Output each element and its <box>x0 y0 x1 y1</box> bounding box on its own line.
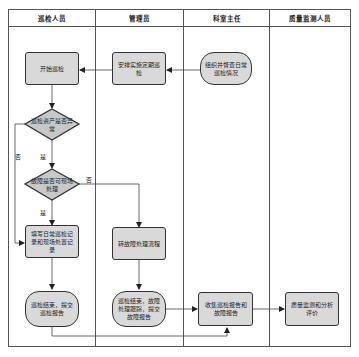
node-organize-supervise: 组织并督查日常巡检情况 <box>200 52 252 85</box>
edge-label-no: 否 <box>15 152 21 161</box>
node-arrange-regular: 安排实施定期巡检 <box>112 52 166 85</box>
decision-fault-onsite-text: 故障是否可现场处理 <box>30 177 74 192</box>
edge-label-no: 否 <box>86 175 92 184</box>
node-fill-record: 填写日常巡检记录和现场处置记录 <box>25 225 79 258</box>
node-submit-report: 巡检结束，提交巡检报告 <box>25 291 79 327</box>
decision-asset-abnormal-text: 巡检资产是否异常 <box>30 117 74 132</box>
node-start-inspection: 开始巡检 <box>25 52 79 85</box>
node-fault-followup: 巡检结束，故障处理跟踪，提交故障报告 <box>112 291 166 327</box>
node-qc-analysis: 质量监测和分析评价 <box>285 292 339 326</box>
edge-label-yes: 是 <box>40 208 46 217</box>
node-transfer-fault: 转故障处理流程 <box>112 227 166 260</box>
edge-label-yes: 是 <box>40 152 46 161</box>
node-collect-reports: 收集巡检报告和故障报告 <box>198 292 253 326</box>
